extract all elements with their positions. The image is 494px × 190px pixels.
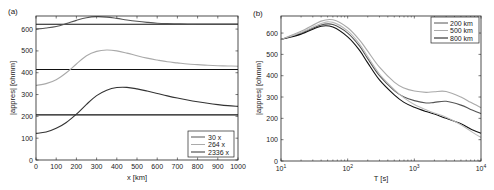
x-tick-label: 1000: [230, 163, 246, 170]
x-tick-label: 102: [342, 163, 353, 172]
x-tick-label: 300: [91, 163, 103, 170]
y-tick-label: 400: [266, 72, 278, 79]
x-tick-label: 700: [172, 163, 184, 170]
panel-b-y-axis-label: |appres| [ohmm]: [254, 61, 263, 115]
x-tick-label: 800: [192, 163, 204, 170]
panel-a-y-axis-label: |appres| [ohmm]: [8, 61, 17, 115]
x-tick-label: 400: [111, 163, 123, 170]
x-tick-label: 104: [476, 163, 487, 172]
legend-label-800km: 800 km: [450, 35, 473, 42]
x-tick-label: 600: [151, 163, 163, 170]
y-tick-label: 300: [21, 91, 33, 98]
x-tick-label: 500: [131, 163, 143, 170]
y-tick-label: 300: [266, 94, 278, 101]
x-tick-label: 101: [276, 163, 287, 172]
panel-b-legend: 200 km 500 km 800 km: [431, 17, 479, 43]
figure: (a) 0100200300400500600 0100200300400500…: [0, 0, 494, 190]
y-tick-label: 600: [21, 26, 33, 33]
y-tick-label: 500: [21, 47, 33, 54]
panel-a-x-axis-label: x [km]: [127, 173, 147, 182]
x-tick-label: 900: [212, 163, 224, 170]
legend-label-264x: 264 x: [208, 141, 226, 148]
panel-a-label: (a): [8, 7, 18, 16]
y-tick-label: 0: [29, 157, 33, 164]
series-line: [36, 50, 238, 85]
x-tick-label: 200: [71, 163, 83, 170]
x-tick-label: 100: [50, 163, 62, 170]
y-tick-label: 500: [266, 51, 278, 58]
panel-a-legend: 30 x 264 x 2336 x: [188, 131, 234, 157]
legend-label-200km: 200 km: [450, 20, 473, 27]
panel-b-x-axis-label: T [s]: [374, 174, 388, 183]
panel-a: (a) 0100200300400500600 0100200300400500…: [8, 7, 246, 182]
y-tick-label: 400: [21, 69, 33, 76]
x-tick-label: 0: [34, 163, 38, 170]
legend-label-2336x: 2336 x: [208, 149, 230, 156]
y-tick-label: 0: [274, 158, 278, 165]
y-tick-label: 200: [21, 113, 33, 120]
y-tick-label: 600: [266, 30, 278, 37]
panel-b-label: (b): [253, 9, 263, 18]
legend-label-30x: 30 x: [208, 134, 222, 141]
x-tick-label: 103: [409, 163, 420, 172]
y-tick-label: 100: [266, 136, 278, 143]
panel-b: (b) 0100200300400500600 101102103104 T […: [253, 9, 487, 183]
panel-a-plot-area: [36, 17, 238, 134]
y-tick-label: 200: [266, 115, 278, 122]
legend-label-500km: 500 km: [450, 27, 473, 34]
y-tick-label: 100: [21, 135, 33, 142]
series-line: [36, 87, 238, 133]
panel-b-y-ticks: 0100200300400500600: [266, 30, 481, 165]
